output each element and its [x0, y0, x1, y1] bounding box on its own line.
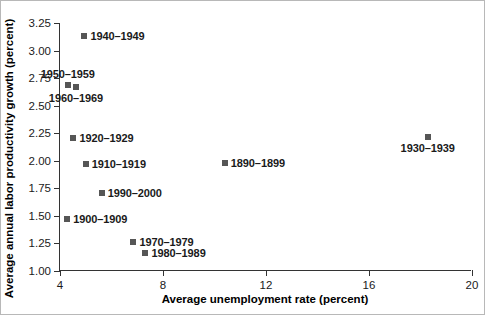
x-axis-tick-mark — [266, 270, 267, 276]
data-point-label: 1950–1959 — [41, 68, 95, 80]
data-point-marker — [65, 82, 71, 88]
data-point-marker — [130, 239, 136, 245]
y-axis-tick-label: 2.25 — [29, 127, 51, 139]
y-axis-tick-mark — [54, 188, 60, 189]
data-point-marker — [142, 250, 148, 256]
data-point-marker — [81, 33, 87, 39]
y-axis-tick-mark — [54, 106, 60, 107]
x-axis-tick-label: 20 — [466, 279, 479, 291]
y-axis-tick-mark — [54, 133, 60, 134]
data-point-marker — [425, 134, 431, 140]
y-axis-tick-mark — [54, 23, 60, 24]
data-point-label: 1940–1949 — [90, 30, 144, 42]
y-axis-tick-label: 2.50 — [29, 100, 51, 112]
x-axis-tick-mark — [60, 270, 61, 276]
data-point-marker — [99, 190, 105, 196]
plot-area: 1.001.251.501.752.002.252.502.753.003.25… — [59, 23, 471, 271]
y-axis-tick-label: 1.25 — [29, 237, 51, 249]
x-axis-tick-mark — [369, 270, 370, 276]
y-axis-tick-label: 3.00 — [29, 45, 51, 57]
data-point-label: 1900–1909 — [73, 213, 127, 225]
data-point-label: 1890–1899 — [231, 157, 285, 169]
y-axis-tick-label: 1.00 — [29, 265, 51, 277]
x-axis-title: Average unemployment rate (percent) — [59, 293, 471, 305]
x-axis-tick-label: 4 — [57, 279, 63, 291]
scatter-chart-figure: 1.001.251.501.752.002.252.502.753.003.25… — [0, 0, 485, 315]
data-point-marker — [64, 216, 70, 222]
x-axis-tick-mark — [163, 270, 164, 276]
x-axis-tick-label: 16 — [363, 279, 376, 291]
data-point-label: 1930–1939 — [401, 142, 455, 154]
data-point-marker — [83, 161, 89, 167]
y-axis-title: Average annual labor productivity growth… — [1, 1, 17, 315]
data-point-label: 1990–2000 — [108, 187, 162, 199]
y-axis-tick-label: 1.50 — [29, 210, 51, 222]
y-axis-tick-mark — [54, 51, 60, 52]
data-point-label: 1980–1989 — [151, 247, 205, 259]
y-axis-tick-mark — [54, 216, 60, 217]
x-axis-tick-label: 12 — [260, 279, 273, 291]
data-point-label: 1960–1969 — [49, 92, 103, 104]
y-axis-tick-label: 1.75 — [29, 182, 51, 194]
data-point-label: 1910–1919 — [92, 158, 146, 170]
data-point-marker — [70, 135, 76, 141]
y-axis-tick-mark — [54, 161, 60, 162]
y-axis-tick-label: 3.25 — [29, 17, 51, 29]
data-point-label: 1920–1929 — [79, 132, 133, 144]
y-axis-tick-mark — [54, 243, 60, 244]
x-axis-tick-label: 8 — [160, 279, 166, 291]
data-point-marker — [73, 84, 79, 90]
data-point-marker — [222, 160, 228, 166]
x-axis-tick-mark — [472, 270, 473, 276]
y-axis-tick-label: 2.00 — [29, 155, 51, 167]
